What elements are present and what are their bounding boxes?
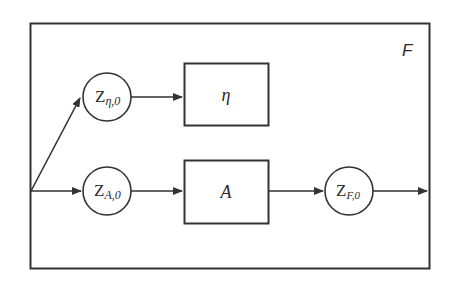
frame-label: F — [402, 41, 414, 60]
node-z-f: ZF,0 — [325, 167, 373, 215]
block-a: A — [185, 161, 269, 224]
block-diagram: F Zη,0 η ZA,0 A ZF,0 — [0, 0, 450, 286]
outer-frame-f — [31, 24, 430, 269]
block-eta: η — [185, 64, 269, 126]
svg-text:η: η — [222, 85, 231, 105]
node-z-eta: Zη,0 — [83, 73, 131, 121]
edge-split-to-zeta — [31, 98, 80, 191]
svg-text:A: A — [220, 182, 233, 202]
node-z-a: ZA,0 — [83, 167, 131, 215]
